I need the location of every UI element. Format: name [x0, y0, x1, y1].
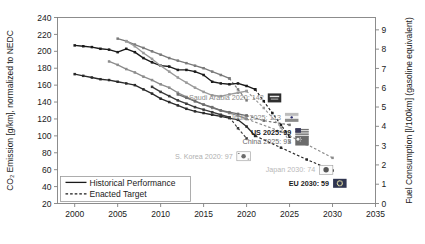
- annotation-label: Saudi Arabia 2020: 142: [189, 93, 264, 102]
- historical-marker: [177, 104, 180, 107]
- historical-marker: [194, 64, 197, 67]
- y-axis-tick-label: 120: [37, 114, 51, 124]
- legend-label: Historical Performance: [90, 178, 176, 188]
- historical-marker: [99, 78, 102, 81]
- y-axis-tick-label: 140: [37, 97, 51, 107]
- historical-marker: [91, 46, 94, 49]
- historical-marker: [142, 57, 145, 60]
- historical-marker: [220, 82, 223, 85]
- flag-disc: [338, 180, 339, 181]
- flag-band: [270, 96, 279, 97]
- historical-marker: [125, 40, 128, 43]
- y-axis-title: CO₂ Emission [g/km], normalized to NEDC: [5, 30, 15, 191]
- y-axis-tick-label: 60: [42, 165, 52, 175]
- historical-marker: [142, 47, 145, 50]
- y-axis-tick-label: 40: [42, 182, 52, 192]
- historical-marker: [202, 103, 205, 106]
- flag-disc: [291, 116, 293, 118]
- historical-marker: [168, 57, 171, 60]
- y2-axis-tick-label: 3: [382, 141, 387, 151]
- flag-band: [271, 99, 279, 100]
- flag-us-icon: [295, 128, 309, 137]
- historical-marker: [116, 64, 119, 67]
- flag-disc: [301, 139, 302, 140]
- historical-marker: [228, 111, 231, 114]
- y-axis-tick-label: 160: [37, 80, 51, 90]
- historical-marker: [237, 82, 240, 85]
- target-marker: [228, 77, 231, 80]
- y2-axis-tick-label: 9: [382, 25, 387, 35]
- y-axis-tick-label: 200: [37, 46, 51, 56]
- y-axis-tick-label: 100: [37, 131, 51, 141]
- flag-japan-icon: [319, 165, 333, 174]
- y2-axis-tick-label: 7: [382, 64, 387, 74]
- flag-s-korea-icon: [237, 152, 251, 161]
- historical-marker: [151, 50, 154, 53]
- target-marker: [237, 88, 240, 91]
- historical-marker: [82, 75, 85, 78]
- y2-axis-tick-label: 5: [382, 102, 387, 112]
- historical-marker: [168, 65, 171, 68]
- flag-band: [285, 113, 299, 116]
- historical-marker: [211, 111, 214, 114]
- flag-disc: [241, 154, 246, 159]
- target-marker: [228, 116, 231, 119]
- historical-marker: [159, 97, 162, 100]
- historical-marker: [177, 99, 180, 102]
- annotation-label: S. Korea 2020: 97: [175, 152, 233, 161]
- historical-marker: [177, 76, 180, 79]
- flag-saudi-arabia-icon: [268, 93, 282, 102]
- historical-marker: [168, 86, 171, 89]
- annotation-label: EU 2030: 59: [289, 179, 329, 188]
- y2-axis-tick-label: 8: [382, 44, 387, 54]
- flag-band: [248, 159, 250, 160]
- historical-marker: [125, 68, 128, 71]
- historical-marker: [116, 51, 119, 54]
- flag-band: [295, 134, 309, 135]
- flag-india-icon: [285, 113, 299, 122]
- historical-marker: [185, 102, 188, 105]
- y-axis-tick-label: 180: [37, 63, 51, 73]
- x-axis-tick-label: 2015: [194, 209, 213, 219]
- y2-axis-tick-label: 2: [382, 160, 387, 170]
- x-axis-tick-label: 2005: [108, 209, 127, 219]
- flag-disc: [339, 185, 340, 186]
- historical-marker: [211, 113, 214, 116]
- y-axis-tick-label: 220: [37, 30, 51, 40]
- historical-marker: [202, 67, 205, 70]
- flag-disc: [341, 181, 342, 182]
- historical-marker: [220, 109, 223, 112]
- flag-band: [295, 137, 309, 146]
- historical-marker: [228, 83, 231, 86]
- historical-marker: [108, 79, 111, 82]
- historical-marker: [168, 101, 171, 104]
- x-axis-tick-label: 2000: [65, 209, 84, 219]
- flag-band: [285, 119, 299, 122]
- annotation-china: China 2025: 93: [243, 137, 309, 146]
- historical-marker: [159, 83, 162, 86]
- historical-marker: [245, 85, 248, 88]
- historical-marker: [73, 73, 76, 76]
- historical-marker: [91, 76, 94, 79]
- y-axis-tick-label: 80: [42, 148, 52, 158]
- historical-marker: [168, 70, 171, 73]
- chart-canvas: 2040608010012014016018020022024001234567…: [0, 0, 425, 244]
- annotation-india: India 2025: 113: [232, 113, 299, 122]
- x-axis-tick-label: 2030: [323, 209, 342, 219]
- historical-marker: [116, 81, 119, 84]
- historical-marker: [245, 125, 248, 128]
- historical-marker: [194, 110, 197, 113]
- historical-marker: [142, 52, 145, 55]
- historical-marker: [177, 59, 180, 62]
- historical-marker: [211, 70, 214, 73]
- historical-marker: [134, 84, 137, 87]
- annotation-japan: Japan 2030: 74: [266, 165, 333, 174]
- historical-marker: [151, 92, 154, 95]
- legend-label: Enacted Target: [90, 189, 148, 199]
- historical-marker: [177, 93, 180, 96]
- historical-marker: [151, 86, 154, 89]
- historical-marker: [134, 45, 137, 48]
- historical-marker: [211, 106, 214, 109]
- target-marker: [263, 107, 266, 110]
- historical-marker: [159, 64, 162, 67]
